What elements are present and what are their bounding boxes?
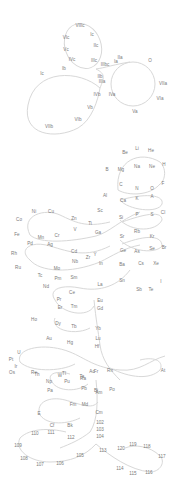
element-label: Be bbox=[122, 150, 128, 155]
element-label: Ic bbox=[40, 71, 44, 76]
element-label: Pd bbox=[27, 241, 33, 246]
element-label: Tl bbox=[62, 371, 66, 376]
loop-period6 bbox=[19, 347, 165, 370]
element-label: Er bbox=[58, 305, 63, 310]
element-label: B bbox=[105, 167, 108, 172]
element-label: Ac bbox=[89, 369, 95, 374]
element-label: Cu bbox=[48, 209, 54, 214]
element-label: Ib bbox=[62, 66, 66, 71]
element-label: Y bbox=[93, 252, 96, 257]
element-label: Te bbox=[149, 287, 154, 292]
loops bbox=[19, 18, 165, 472]
element-label: Sr bbox=[120, 234, 125, 239]
element-label: Po bbox=[109, 387, 115, 392]
loop-block2-upper bbox=[118, 157, 165, 190]
element-label: Ni bbox=[32, 209, 36, 214]
element-label: Al bbox=[103, 193, 107, 198]
element-label: IVa bbox=[109, 92, 116, 97]
element-label: 120 bbox=[117, 446, 125, 451]
element-label: 108 bbox=[20, 456, 28, 461]
element-label: Ce bbox=[69, 290, 75, 295]
element-label: F bbox=[162, 181, 165, 186]
element-label: Rh bbox=[11, 251, 17, 256]
element-label: At bbox=[161, 368, 166, 373]
element-label: E bbox=[37, 411, 40, 416]
element-label: 102 bbox=[96, 420, 104, 425]
element-label: IIa bbox=[117, 55, 123, 60]
element-label: Si bbox=[119, 215, 123, 220]
element-label: VIa bbox=[157, 96, 164, 101]
element-label: 115 bbox=[129, 471, 137, 476]
element-label: Am bbox=[96, 390, 103, 395]
element-label: Sc bbox=[97, 208, 103, 213]
element-label: VIIb bbox=[45, 124, 54, 129]
element-label: 110 bbox=[31, 431, 39, 436]
element-label: Sb bbox=[136, 287, 142, 292]
element-label: Hf bbox=[95, 344, 100, 349]
element-label: 119 bbox=[129, 442, 137, 447]
element-label: K bbox=[135, 196, 139, 201]
element-label: As bbox=[134, 249, 140, 254]
element-label: 106 bbox=[56, 461, 64, 466]
loop-super-1 bbox=[19, 430, 96, 462]
element-label: 111 bbox=[48, 430, 55, 435]
element-label: N bbox=[135, 186, 138, 191]
element-label: 112 bbox=[67, 435, 75, 440]
element-label: Mo bbox=[54, 266, 61, 271]
loop-lanth-1 bbox=[53, 270, 130, 300]
element-label: Ba bbox=[119, 262, 125, 267]
element-label: Md bbox=[82, 402, 89, 407]
element-label: Cm bbox=[95, 410, 102, 415]
element-label: Ca bbox=[120, 198, 126, 203]
element-label: A bbox=[150, 194, 154, 199]
element-label: 116 bbox=[145, 470, 153, 475]
element-label: O bbox=[148, 58, 152, 63]
element-label: Sn bbox=[119, 278, 125, 283]
element-label: Tb bbox=[71, 324, 77, 329]
element-label: 109 bbox=[14, 443, 22, 448]
element-label: Tc bbox=[38, 273, 43, 278]
element-label: Ag bbox=[47, 242, 53, 247]
element-label: Cl bbox=[161, 210, 165, 215]
element-label: Ra bbox=[80, 376, 86, 381]
element-label: U bbox=[17, 350, 20, 355]
loop-act-spine bbox=[60, 380, 97, 448]
loop-right-circle bbox=[111, 62, 155, 106]
element-label: IIIa bbox=[99, 79, 106, 84]
element-label: VIb bbox=[75, 117, 82, 122]
element-label: Lu bbox=[95, 336, 101, 341]
element-label: Mn bbox=[38, 235, 45, 240]
element-label: Ga bbox=[95, 230, 102, 235]
element-label: Ne bbox=[149, 164, 155, 169]
element-label: He bbox=[148, 148, 154, 153]
element-label: Nd bbox=[43, 284, 49, 289]
element-label: IVb bbox=[94, 92, 101, 97]
element-label: La bbox=[97, 282, 103, 287]
element-label: Pa bbox=[47, 388, 53, 393]
element-label: In bbox=[99, 261, 103, 266]
element-label: Th bbox=[34, 372, 40, 377]
element-label: Yb bbox=[95, 326, 101, 331]
element-label: Li bbox=[135, 146, 139, 151]
element-label: Zr bbox=[86, 255, 91, 260]
element-label: Va bbox=[132, 109, 138, 114]
element-label: Ic bbox=[90, 32, 94, 37]
element-label: Co bbox=[16, 217, 22, 222]
element-label: 105 bbox=[76, 453, 84, 458]
element-label: VIIIc bbox=[75, 23, 85, 28]
element-label: Bk bbox=[67, 423, 73, 428]
element-label: IIIbc bbox=[101, 62, 110, 67]
element-label: Dy bbox=[55, 321, 61, 326]
element-label: Vc bbox=[63, 47, 69, 52]
element-label: I bbox=[160, 279, 161, 284]
element-label: 104 bbox=[96, 434, 104, 439]
element-label: Pr bbox=[57, 297, 62, 302]
element-label: 114 bbox=[116, 466, 124, 471]
element-label: Gd bbox=[97, 306, 104, 311]
element-label: Ti bbox=[88, 221, 92, 226]
element-label: Cr bbox=[55, 233, 60, 238]
element-label: Pu bbox=[64, 379, 70, 384]
element-label: Kr bbox=[150, 234, 155, 239]
element-label: C bbox=[119, 182, 123, 187]
element-label: Nb bbox=[72, 259, 78, 264]
